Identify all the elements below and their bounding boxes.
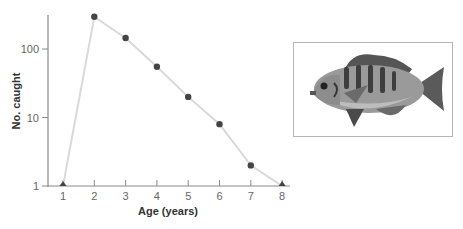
x-tick-label: 7 <box>248 190 254 202</box>
circle-marker-icon <box>122 35 128 41</box>
y-tick-label: 100 <box>21 43 39 55</box>
circle-marker-icon <box>216 121 222 127</box>
y-ticks: 110100 <box>21 43 48 192</box>
bluegill-fish-icon <box>294 43 452 136</box>
series-line <box>63 17 282 186</box>
y-tick-label: 10 <box>27 112 39 124</box>
y-axis-title: No. caught <box>10 72 22 129</box>
x-tick-label: 8 <box>279 190 285 202</box>
fish-illustration-frame <box>293 42 453 137</box>
triangle-marker-icon <box>60 181 67 186</box>
x-tick-label: 2 <box>91 190 97 202</box>
x-tick-label: 3 <box>123 190 129 202</box>
data-markers <box>60 14 286 186</box>
circle-marker-icon <box>185 94 191 100</box>
x-ticks: 12345678 <box>60 180 285 202</box>
x-tick-label: 5 <box>185 190 191 202</box>
x-tick-label: 6 <box>216 190 222 202</box>
circle-marker-icon <box>248 162 254 168</box>
x-tick-label: 4 <box>154 190 160 202</box>
circle-marker-icon <box>154 64 160 70</box>
y-tick-label: 1 <box>33 180 39 192</box>
x-axis-title: Age (years) <box>138 205 198 217</box>
x-tick-label: 1 <box>60 190 66 202</box>
circle-marker-icon <box>91 14 97 20</box>
axes <box>48 15 290 187</box>
